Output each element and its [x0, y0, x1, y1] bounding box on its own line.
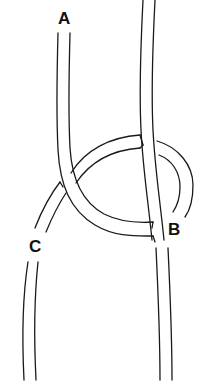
label-c: C: [29, 238, 41, 255]
loop-strand: [71, 135, 193, 217]
label-b: B: [168, 221, 180, 238]
label-a: A: [58, 10, 70, 27]
knot-diagram: [0, 0, 202, 392]
c-strand: [23, 182, 66, 380]
right-standing-strand: [145, 0, 165, 392]
